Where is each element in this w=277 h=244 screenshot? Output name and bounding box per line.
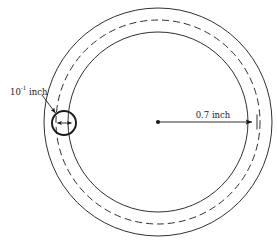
thickness-leader-line bbox=[42, 95, 56, 113]
figure-container: 0.7 inch 10-1 inch bbox=[0, 0, 277, 244]
radius-dimension-label: 0.7 inch bbox=[196, 110, 231, 120]
center-point-dot bbox=[156, 120, 160, 124]
thickness-unit: inch bbox=[26, 87, 48, 97]
thickness-mantissa: 10 bbox=[10, 87, 21, 97]
thickness-callout-label: 10-1 inch bbox=[10, 85, 48, 96]
circle-diagram: 0.7 inch 10-1 inch bbox=[0, 0, 277, 244]
